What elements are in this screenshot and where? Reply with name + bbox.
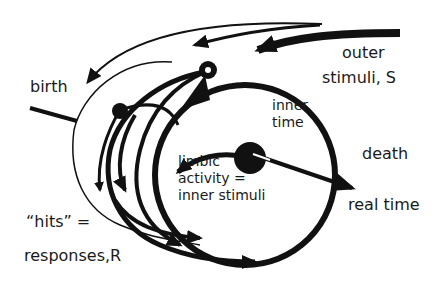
- real-time-label: real time: [348, 196, 420, 214]
- death-label: death: [362, 145, 408, 163]
- limbic-label-line1: limbic: [178, 153, 220, 169]
- limbic-label-line3: inner stimuli: [178, 187, 265, 203]
- birth-label: birth: [30, 78, 68, 96]
- inner-time-label-line1: inner: [272, 97, 308, 113]
- spiral-node-left: [112, 103, 128, 119]
- node-top-wedge: [180, 75, 210, 110]
- hits-label: “hits” =: [26, 213, 90, 231]
- responses-label: responses,R: [24, 247, 121, 265]
- inner-time-label-line2: time: [272, 114, 304, 130]
- birth-line: [30, 108, 77, 121]
- limbic-label-line2: activity =: [178, 170, 246, 186]
- outer-stimuli-label-line1: outer: [342, 44, 385, 62]
- outer-stimuli-label-line2: stimuli, S: [322, 69, 396, 87]
- spiral-node-hole: [205, 67, 211, 73]
